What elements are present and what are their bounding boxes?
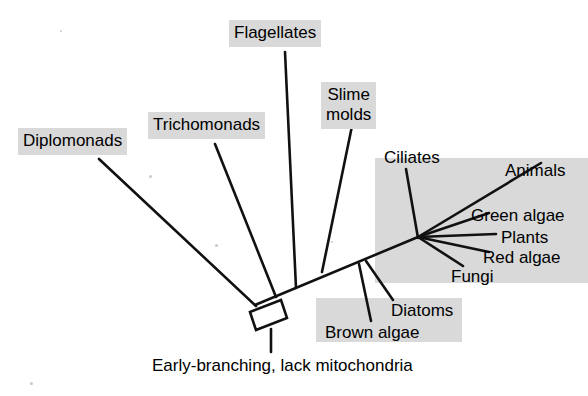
label-trichomonads: Trichomonads (148, 112, 265, 139)
branch-trichomonads (215, 144, 276, 297)
branch-diplomonads (99, 159, 256, 306)
figure-caption: Early-branching, lack mitochondria (152, 356, 413, 376)
phylogenetic-tree-figure: Diplomonads Trichomonads Flagellates Sli… (0, 0, 588, 396)
tree-branches (0, 0, 588, 396)
branch-flagellates (285, 52, 296, 288)
label-flagellates: Flagellates (229, 20, 321, 47)
label-fungi: Fungi (446, 264, 499, 291)
branch-slime-molds (322, 126, 352, 272)
label-brown-algae: Brown algae (320, 320, 425, 347)
branch-ciliates (406, 169, 418, 238)
branch-brown-algae (359, 264, 371, 321)
label-animals: Animals (500, 158, 570, 185)
branch-plants (418, 234, 496, 237)
branch-trunk (255, 237, 418, 305)
label-slime-molds: Slime molds (321, 82, 376, 129)
label-ciliates: Ciliates (379, 145, 445, 172)
branch-diatoms (366, 261, 393, 300)
label-diplomonads: Diplomonads (18, 128, 127, 155)
